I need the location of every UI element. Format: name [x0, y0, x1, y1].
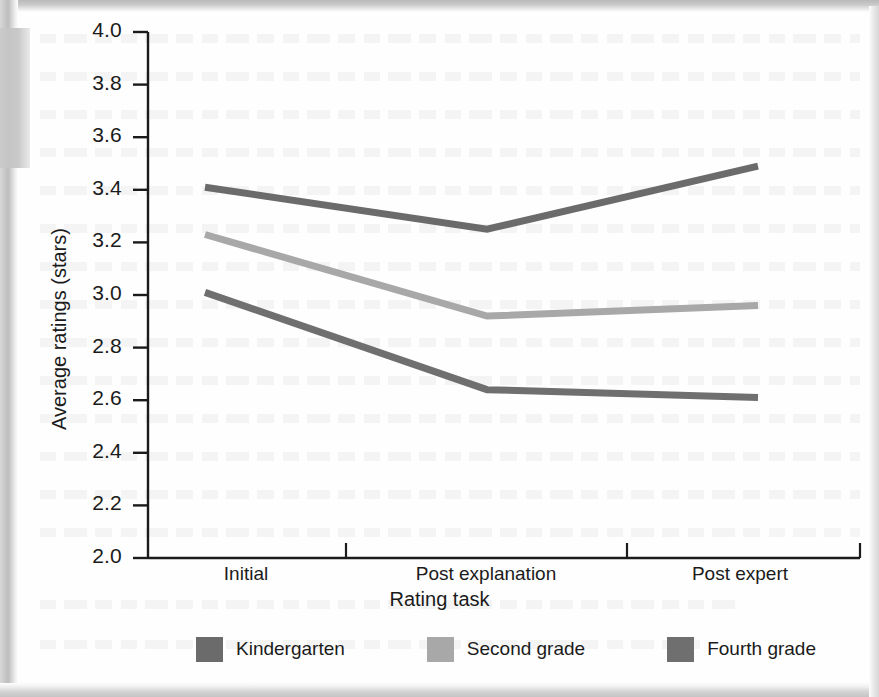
figure-page: Average ratings (stars) Rating task 4.03… [0, 0, 879, 697]
legend-swatch [196, 637, 223, 662]
chart-legend: KindergartenSecond gradeFourth grade [196, 632, 816, 666]
x-tick-label: Post expert [630, 563, 850, 585]
y-tick-label: 3.0 [60, 281, 122, 305]
chart-axes [133, 32, 860, 558]
legend-label: Kindergarten [236, 638, 345, 660]
y-tick-label: 2.4 [60, 439, 122, 463]
y-tick-label: 3.6 [60, 123, 122, 147]
y-tick-label: 2.0 [60, 544, 122, 568]
y-tick-label: 2.6 [60, 386, 122, 410]
y-tick-label: 3.8 [60, 71, 122, 95]
legend-label: Second grade [467, 638, 585, 660]
y-tick-label: 4.0 [60, 18, 122, 42]
x-tick-label: Initial [136, 563, 356, 585]
y-tick-label: 3.2 [60, 228, 122, 252]
legend-item: Second grade [427, 637, 585, 662]
x-axis-title: Rating task [0, 588, 879, 611]
y-tick-label: 2.2 [60, 491, 122, 515]
legend-item: Kindergarten [196, 637, 345, 662]
legend-label: Fourth grade [707, 638, 816, 660]
legend-swatch [427, 637, 454, 662]
chart-series-lines [205, 166, 758, 397]
series-line-1 [205, 235, 758, 317]
legend-swatch [667, 637, 694, 662]
legend-item: Fourth grade [667, 637, 816, 662]
x-tick-label: Post explanation [376, 563, 596, 585]
y-tick-label: 3.4 [60, 176, 122, 200]
y-tick-label: 2.8 [60, 334, 122, 358]
series-line-0 [205, 166, 758, 229]
